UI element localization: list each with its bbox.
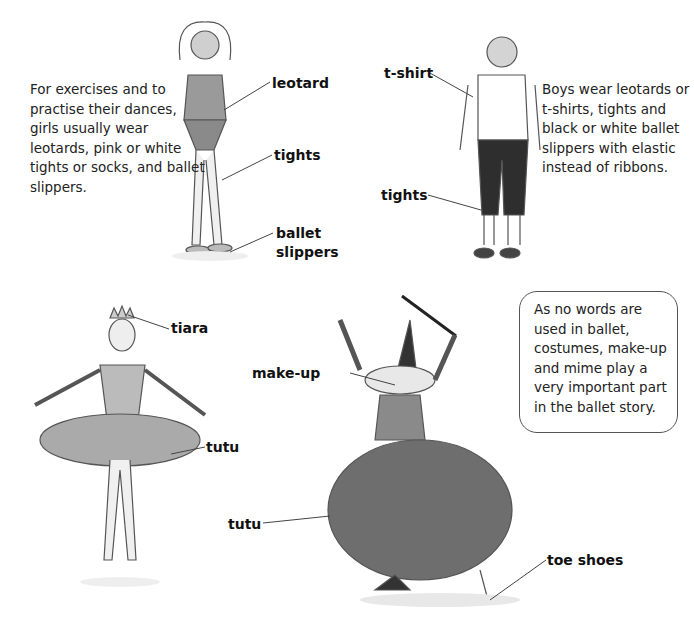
callout-text: As no words are used in ballet, costumes… [534, 300, 667, 417]
label-t-shirt: t-shirt [384, 64, 433, 82]
witch-illustration [328, 296, 520, 607]
label-tutu-witch: tutu [228, 515, 261, 533]
boy-illustration [460, 37, 540, 258]
boys-description: Boys wear leotards or t-shirts, tights a… [542, 80, 692, 178]
label-ballet-slippers-line2: slippers [276, 243, 339, 261]
ballerina-illustration [35, 306, 205, 587]
label-ballet-slippers-line1: ballet [276, 224, 321, 242]
label-leotard: leotard [272, 74, 329, 92]
label-tights-boy: tights [381, 186, 428, 204]
callout-box: As no words are used in ballet, costumes… [519, 291, 678, 433]
label-tiara: tiara [171, 319, 208, 337]
label-make-up: make-up [252, 364, 320, 382]
label-tutu-ballerina: tutu [206, 438, 239, 456]
label-tights-girl: tights [274, 146, 321, 164]
girls-description: For exercises and to practise their danc… [30, 80, 205, 197]
label-toe-shoes: toe shoes [547, 551, 623, 569]
